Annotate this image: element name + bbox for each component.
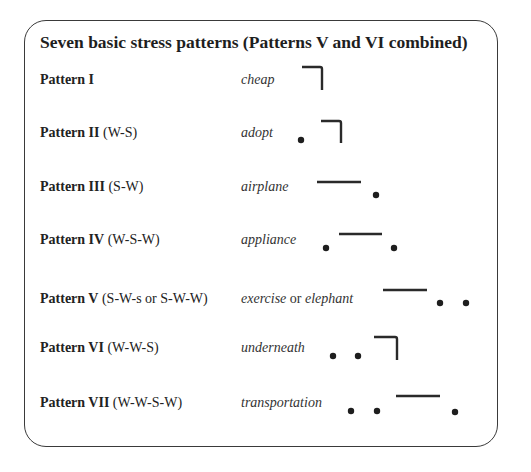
stress-bracket-icon [321,121,341,143]
unstressed-dot-icon [373,192,379,198]
unstressed-dot-icon [348,408,354,414]
unstressed-dot-icon [437,300,443,306]
unstressed-dot-icon [374,408,380,414]
stress-bracket-icon [302,67,322,90]
unstressed-dot-icon [463,300,469,306]
unstressed-dot-icon [391,245,397,251]
unstressed-dot-icon [355,353,361,359]
stress-bracket-icon [374,337,397,360]
unstressed-dot-icon [323,245,329,251]
unstressed-dot-icon [452,409,458,415]
unstressed-dot-icon [298,137,304,143]
unstressed-dot-icon [330,353,336,359]
stress-diagrams [0,0,531,472]
